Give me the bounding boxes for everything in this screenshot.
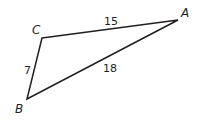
triangle-diagram: A B C 15 18 7 bbox=[0, 0, 200, 125]
side-label-ca: 15 bbox=[104, 15, 118, 28]
triangle-abc bbox=[27, 20, 178, 99]
side-label-ab: 18 bbox=[103, 62, 117, 75]
side-label-cb: 7 bbox=[24, 64, 31, 77]
vertex-label-c: C bbox=[32, 23, 41, 37]
vertex-label-a: A bbox=[180, 6, 189, 20]
vertex-label-b: B bbox=[15, 102, 23, 116]
